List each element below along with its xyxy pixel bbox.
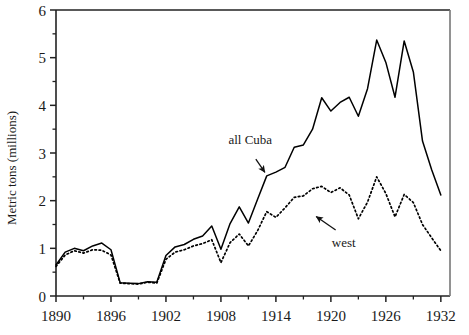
x-tick-label: 1932	[426, 308, 456, 324]
y-tick-label: 0	[39, 289, 47, 305]
x-tick-label: 1926	[371, 308, 402, 324]
annotation-all-cuba-label: all Cuba	[228, 132, 272, 147]
y-tick-label: 3	[39, 146, 47, 162]
y-axis-title: Metric tons (millions)	[4, 111, 19, 225]
x-tick-label: 1890	[41, 308, 71, 324]
chart-container: 012345618901896190219081914192019261932 …	[0, 0, 469, 335]
chart-background	[0, 0, 469, 335]
y-tick-label: 2	[39, 193, 47, 209]
x-tick-label: 1920	[316, 308, 346, 324]
sugar-production-line-chart: 012345618901896190219081914192019261932 …	[0, 0, 469, 335]
x-tick-label: 1914	[261, 308, 292, 324]
y-tick-label: 6	[39, 3, 47, 19]
y-tick-label: 1	[39, 241, 47, 257]
x-tick-label: 1902	[151, 308, 181, 324]
x-tick-label: 1908	[206, 308, 236, 324]
x-tick-label: 1896	[96, 308, 127, 324]
y-tick-label: 5	[39, 50, 47, 66]
y-tick-label: 4	[39, 98, 47, 114]
annotation-west-label: west	[332, 235, 356, 250]
